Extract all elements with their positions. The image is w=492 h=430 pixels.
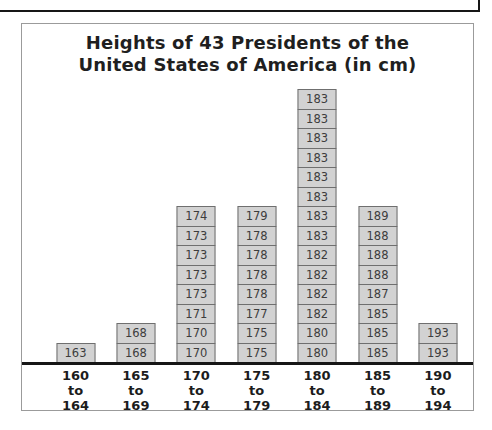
unit-cell: 193 — [418, 343, 457, 364]
unit-cell: 182 — [298, 245, 337, 266]
unit-cell: 183 — [298, 226, 337, 247]
unit-cell: 173 — [177, 226, 216, 247]
unit-stack: 179178178178178177175175 — [237, 206, 276, 363]
unit-cell: 178 — [237, 226, 276, 247]
x-axis-tick-label-line: 189 — [347, 398, 409, 413]
unit-cell: 168 — [116, 323, 155, 344]
unit-cell: 183 — [298, 128, 337, 149]
x-axis-tick-label-line: 184 — [286, 398, 348, 413]
unit-cell: 182 — [298, 265, 337, 286]
unit-cell: 178 — [237, 265, 276, 286]
x-axis-tick-label-line: to — [165, 383, 227, 398]
unit-cell: 178 — [237, 284, 276, 305]
unit-cell: 183 — [298, 187, 337, 208]
x-axis-tick-label: 175to179 — [226, 368, 288, 414]
histogram-column: 1831831831831831831831831821821821821801… — [286, 24, 348, 410]
x-axis-tick-label-line: 180 — [286, 368, 348, 383]
histogram-column: 193193190to194 — [407, 24, 469, 410]
unit-cell: 173 — [177, 245, 216, 266]
x-axis-tick-label-line: to — [45, 383, 107, 398]
unit-cell: 188 — [358, 226, 397, 247]
unit-stack: 168168 — [116, 323, 155, 363]
unit-cell: 180 — [298, 343, 337, 364]
unit-cell: 187 — [358, 284, 397, 305]
plot-area: 163160to164168168165to169174173173173173… — [22, 24, 473, 410]
x-axis-tick-label-line: to — [347, 383, 409, 398]
unit-stack: 193193 — [418, 323, 457, 363]
histogram-column: 168168165to169 — [105, 24, 167, 410]
unit-cell: 183 — [298, 148, 337, 169]
unit-cell: 182 — [298, 284, 337, 305]
unit-cell: 179 — [237, 206, 276, 227]
x-axis-tick-label-line: 175 — [226, 368, 288, 383]
unit-cell: 183 — [298, 109, 337, 130]
chart-frame: Heights of 43 Presidents of the United S… — [21, 23, 474, 411]
histogram-column: 179178178178178177175175175to179 — [226, 24, 288, 410]
x-axis-tick-label-line: 174 — [165, 398, 227, 413]
unit-cell: 185 — [358, 323, 397, 344]
unit-cell: 173 — [177, 284, 216, 305]
x-axis-tick-label-line: 185 — [347, 368, 409, 383]
unit-stack: 189188188188187185185185 — [358, 206, 397, 363]
unit-cell: 193 — [418, 323, 457, 344]
x-axis-tick-label: 160to164 — [45, 368, 107, 414]
unit-cell: 188 — [358, 265, 397, 286]
unit-cell: 177 — [237, 304, 276, 325]
unit-cell: 163 — [56, 343, 95, 364]
x-axis-tick-label: 170to174 — [165, 368, 227, 414]
x-axis-tick-label-line: to — [407, 383, 469, 398]
x-axis-tick-label: 180to184 — [286, 368, 348, 414]
x-axis-tick-label-line: 194 — [407, 398, 469, 413]
unit-cell: 175 — [237, 343, 276, 364]
x-axis-tick-label-line: to — [286, 383, 348, 398]
unit-cell: 170 — [177, 323, 216, 344]
unit-cell: 188 — [358, 245, 397, 266]
x-axis-tick-label: 165to169 — [105, 368, 167, 414]
x-axis-tick-label-line: 190 — [407, 368, 469, 383]
unit-cell: 173 — [177, 265, 216, 286]
unit-cell: 183 — [298, 167, 337, 188]
unit-cell: 185 — [358, 343, 397, 364]
histogram-column: 174173173173173171170170170to174 — [165, 24, 227, 410]
x-axis-tick-label-line: 169 — [105, 398, 167, 413]
unit-cell: 178 — [237, 245, 276, 266]
unit-cell: 168 — [116, 343, 155, 364]
x-axis-tick-label-line: to — [226, 383, 288, 398]
unit-cell: 180 — [298, 323, 337, 344]
x-axis-tick-label: 190to194 — [407, 368, 469, 414]
unit-stack: 174173173173173171170170 — [177, 206, 216, 363]
unit-cell: 183 — [298, 89, 337, 110]
x-axis-line — [22, 362, 473, 365]
histogram-column: 163160to164 — [45, 24, 107, 410]
unit-cell: 182 — [298, 304, 337, 325]
x-axis-tick-label: 185to189 — [347, 368, 409, 414]
partial-window-frame-corner — [0, 0, 480, 12]
x-axis-tick-label-line: 179 — [226, 398, 288, 413]
unit-cell: 174 — [177, 206, 216, 227]
x-axis-tick-label-line: 164 — [45, 398, 107, 413]
x-axis-tick-label-line: 165 — [105, 368, 167, 383]
unit-stack: 163 — [56, 343, 95, 364]
unit-cell: 183 — [298, 206, 337, 227]
unit-cell: 170 — [177, 343, 216, 364]
histogram-column: 189188188188187185185185185to189 — [347, 24, 409, 410]
unit-cell: 171 — [177, 304, 216, 325]
x-axis-tick-label-line: 160 — [45, 368, 107, 383]
x-axis-tick-label-line: to — [105, 383, 167, 398]
unit-cell: 175 — [237, 323, 276, 344]
unit-cell: 185 — [358, 304, 397, 325]
x-axis-tick-label-line: 170 — [165, 368, 227, 383]
unit-stack: 1831831831831831831831831821821821821801… — [298, 89, 337, 363]
unit-cell: 189 — [358, 206, 397, 227]
